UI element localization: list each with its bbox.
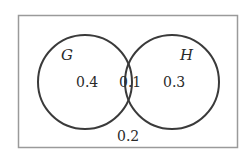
h-only-value: 0.3 [163, 74, 185, 90]
set-label-h: H [179, 46, 194, 64]
intersection-value: 0.1 [119, 74, 141, 90]
venn-diagram: G H 0.4 0.1 0.3 0.2 [0, 0, 241, 156]
g-only-value: 0.4 [76, 74, 98, 90]
outside-value: 0.2 [117, 128, 139, 144]
set-label-g: G [61, 46, 73, 64]
